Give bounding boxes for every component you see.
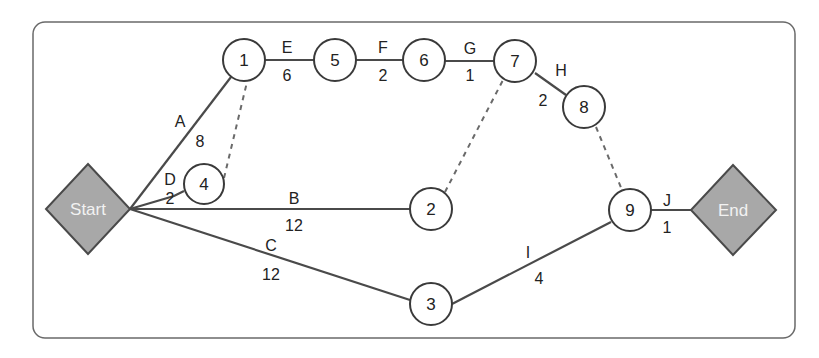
node-7-label: 7 (510, 52, 519, 71)
activity-F-label: F (378, 39, 388, 56)
activity-I-duration: 4 (535, 270, 544, 287)
activity-J-label: J (663, 192, 671, 209)
activity-J-duration: 1 (663, 219, 672, 236)
node-3-label: 3 (426, 295, 435, 314)
node-6-label: 6 (419, 51, 428, 70)
activity-B-label: B (289, 190, 300, 207)
activity-E-duration: 6 (283, 67, 292, 84)
activity-F-duration: 2 (379, 67, 388, 84)
activity-A-label: A (175, 113, 186, 130)
activity-D-label: D (164, 171, 176, 188)
activity-H-label: H (555, 62, 567, 79)
node-2: 2 (410, 188, 452, 230)
start-label: Start (70, 200, 106, 219)
node-2-label: 2 (426, 200, 435, 219)
activity-G-duration: 1 (466, 67, 475, 84)
node-3: 3 (410, 283, 452, 325)
activity-I-label: I (526, 244, 530, 261)
activity-B-duration: 12 (285, 217, 303, 234)
diagram-canvas: Start End 1 5 6 7 8 4 2 9 3 A 8 (0, 0, 819, 358)
node-4-label: 4 (199, 175, 208, 194)
node-4: 4 (184, 164, 224, 204)
activity-C-duration: 12 (262, 266, 280, 283)
network-diagram: Start End 1 5 6 7 8 4 2 9 3 A 8 (0, 0, 819, 358)
end-label: End (718, 201, 748, 220)
activity-A-duration: 8 (196, 133, 205, 150)
activity-C-label: C (265, 237, 277, 254)
node-8-label: 8 (579, 98, 588, 117)
node-8: 8 (563, 86, 605, 128)
node-9: 9 (609, 189, 651, 231)
activity-G-label: G (464, 40, 476, 57)
node-7: 7 (494, 40, 536, 82)
activity-D-duration: 2 (166, 190, 175, 207)
node-9-label: 9 (625, 201, 634, 220)
node-6: 6 (403, 39, 445, 81)
node-1-label: 1 (239, 51, 248, 70)
node-5: 5 (314, 39, 356, 81)
activity-H-duration: 2 (539, 92, 548, 109)
node-5-label: 5 (330, 51, 339, 70)
node-1: 1 (223, 39, 265, 81)
activity-E-label: E (282, 39, 293, 56)
